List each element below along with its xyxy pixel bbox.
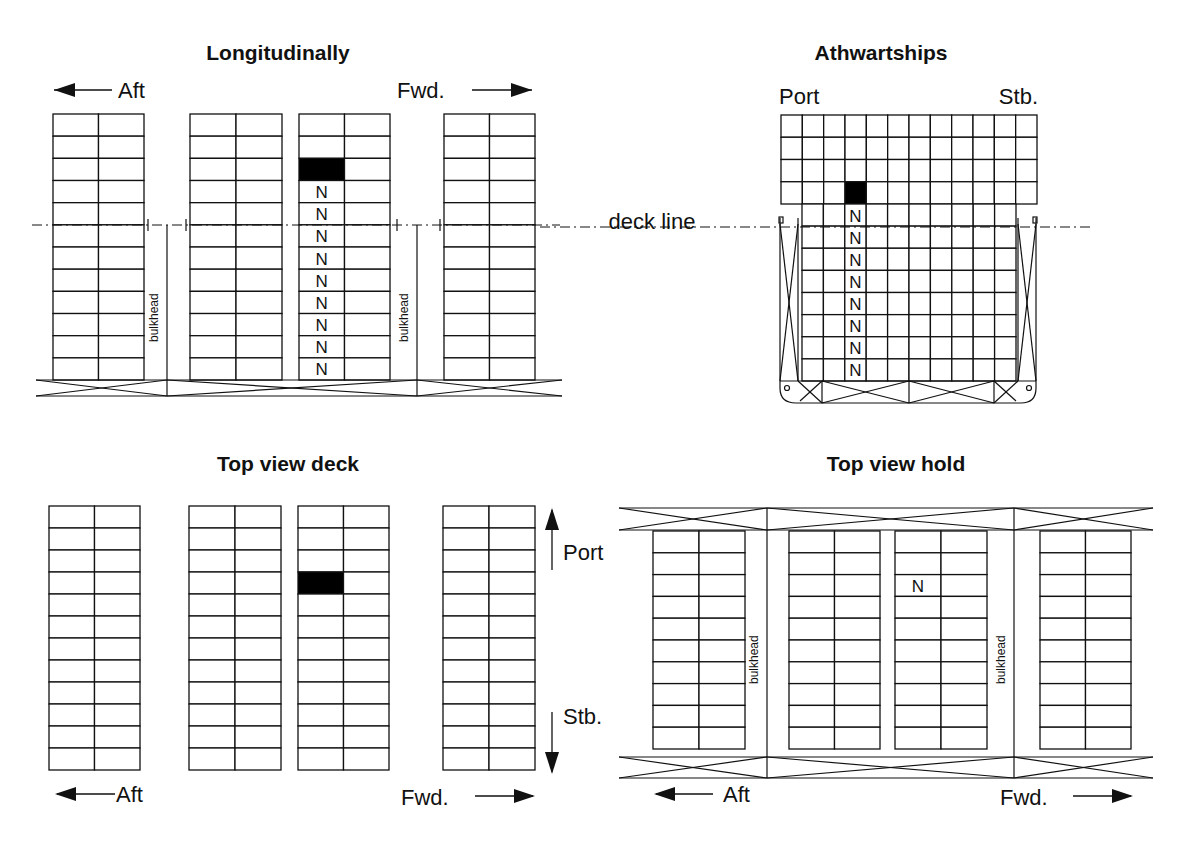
container-slot [298, 748, 344, 770]
container-slot [952, 293, 973, 315]
container-slot [444, 336, 490, 358]
container-slot [53, 291, 99, 313]
bulkhead-label: bulkhead [397, 293, 411, 342]
container-slot [973, 182, 994, 204]
container-slot [99, 247, 145, 269]
container-slot [653, 531, 699, 553]
container-slot [99, 291, 145, 313]
container-slot [888, 270, 909, 292]
container-slot [443, 682, 489, 704]
aft-arrow-icon [54, 83, 112, 97]
container-slot [866, 359, 887, 381]
container-slot [789, 705, 835, 727]
container-slot [345, 203, 391, 225]
container-slot [802, 137, 823, 159]
container-slot [490, 269, 536, 291]
container-slot [699, 727, 745, 749]
container-slot [99, 225, 145, 247]
container-slot [235, 616, 281, 638]
container-slot [941, 575, 987, 597]
container-slot [802, 293, 823, 315]
container-slot [235, 748, 281, 770]
container-slot [49, 704, 95, 726]
container-slot [189, 572, 235, 594]
container-slot [53, 114, 99, 136]
container-slot [490, 314, 536, 336]
container-slot [95, 726, 141, 748]
container-slot [952, 182, 973, 204]
container-slot [653, 705, 699, 727]
container-slot [49, 528, 95, 550]
container-slot [781, 182, 802, 204]
container-slot [236, 225, 282, 247]
deck-line-label: deck line [609, 209, 696, 234]
container-slot [824, 182, 845, 204]
container-slot [699, 575, 745, 597]
container-slot [444, 358, 490, 380]
container-slot [802, 359, 823, 381]
container-slot [99, 336, 145, 358]
container-slot [1086, 596, 1132, 618]
container-slot [190, 225, 236, 247]
container-slot [298, 660, 344, 682]
container-slot [236, 358, 282, 380]
container-slot [699, 684, 745, 706]
n-marker: N [849, 295, 861, 314]
container-slot [444, 136, 490, 158]
container-slot [190, 336, 236, 358]
container-slot [888, 160, 909, 182]
container-slot [1086, 575, 1132, 597]
n-marker: N [316, 205, 328, 224]
container-slot [789, 640, 835, 662]
container-slot [236, 181, 282, 203]
container-slot [835, 618, 881, 640]
container-slot [1040, 531, 1086, 553]
container-slot [930, 359, 951, 381]
container-slot [888, 137, 909, 159]
container-slot [1040, 662, 1086, 684]
container-slot [489, 506, 535, 528]
container-slot [699, 662, 745, 684]
stb-arrow-icon [545, 712, 559, 774]
container-slot [235, 726, 281, 748]
container-slot [952, 160, 973, 182]
container-slot [344, 572, 390, 594]
container-slot [95, 506, 141, 528]
longitudinal-aft-label: Aft [118, 78, 145, 103]
container-slot [909, 293, 930, 315]
container-slot [895, 727, 941, 749]
double-bottom [36, 380, 562, 396]
container-slot [489, 726, 535, 748]
container-slot [789, 575, 835, 597]
container-slot [344, 704, 390, 726]
container-slot [189, 726, 235, 748]
container-slot [49, 726, 95, 748]
n-marker: N [849, 361, 861, 380]
container-slot [489, 748, 535, 770]
container-slot [930, 315, 951, 337]
container-slot [190, 314, 236, 336]
container-slot [444, 203, 490, 225]
container-slot [95, 528, 141, 550]
container-slot [895, 684, 941, 706]
container-slot [866, 337, 887, 359]
container-slot [344, 638, 390, 660]
container-slot [99, 203, 145, 225]
container-slot [49, 572, 95, 594]
container-slot [490, 203, 536, 225]
container-slot [995, 315, 1016, 337]
container-slot [995, 248, 1016, 270]
container-slot [345, 136, 391, 158]
container-slot [802, 248, 823, 270]
container-slot [443, 528, 489, 550]
container-slot [930, 115, 951, 137]
container-slot [895, 596, 941, 618]
container-slot [845, 137, 866, 159]
container-slot [895, 618, 941, 640]
container-slot [49, 748, 95, 770]
container-slot [490, 358, 536, 380]
container-slot [789, 662, 835, 684]
container-slot [490, 158, 536, 180]
container-slot [824, 160, 845, 182]
container-slot [973, 359, 994, 381]
